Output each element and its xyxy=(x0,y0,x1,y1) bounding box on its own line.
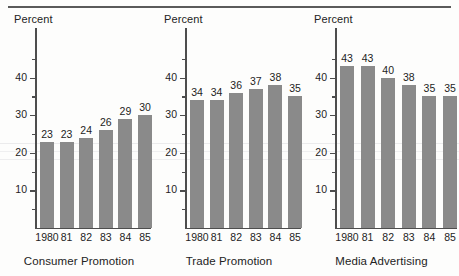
x-axis-tick-label: 81 xyxy=(208,231,226,243)
bar xyxy=(268,85,282,228)
y-axis-major-tick xyxy=(30,190,36,191)
bar-value-label: 35 xyxy=(437,82,459,94)
x-axis-tick-label: 84 xyxy=(420,231,438,243)
bar-value-label: 26 xyxy=(93,116,119,128)
bar xyxy=(229,93,243,228)
bar xyxy=(422,96,436,228)
bar xyxy=(443,96,457,228)
x-axis-tick-label: 81 xyxy=(58,231,76,243)
y-axis-major-tick xyxy=(180,78,186,79)
y-axis-tick-label: 40 xyxy=(315,71,327,83)
bar xyxy=(402,85,416,228)
y-axis-tick-label: 40 xyxy=(15,71,27,83)
bar xyxy=(340,66,354,228)
x-axis-tick-label: 82 xyxy=(227,231,245,243)
y-axis-major-tick xyxy=(180,190,186,191)
x-axis-tick-label: 1980 xyxy=(333,231,361,243)
bar xyxy=(60,142,74,228)
panel-caption: Trade Promotion xyxy=(154,255,304,267)
bar xyxy=(40,142,54,228)
bar xyxy=(118,119,132,228)
y-axis-major-tick xyxy=(30,78,36,79)
y-axis-minor-tick xyxy=(32,172,36,173)
y-axis-minor-tick xyxy=(332,134,336,135)
y-axis-minor-tick xyxy=(182,134,186,135)
x-axis-tick-label: 84 xyxy=(266,231,284,243)
bar xyxy=(381,78,395,228)
y-axis-minor-tick xyxy=(32,209,36,210)
y-axis-major-tick xyxy=(330,153,336,154)
y-axis-tick-label: 10 xyxy=(315,183,327,195)
y-axis-major-tick xyxy=(30,153,36,154)
y-axis-tick-label: 30 xyxy=(15,108,27,120)
y-axis-tick-label: 20 xyxy=(165,146,177,158)
y-axis-tick-label: 10 xyxy=(165,183,177,195)
y-axis-tick-label: 30 xyxy=(315,108,327,120)
x-axis-tick-label: 83 xyxy=(247,231,265,243)
y-axis-minor-tick xyxy=(32,96,36,97)
y-axis-unit-label: Percent xyxy=(314,13,353,25)
y-axis-unit-label: Percent xyxy=(164,13,203,25)
y-axis-minor-tick xyxy=(32,59,36,60)
chart-panel-trade-promotion: Percent 10203040 343436373835 1980818283… xyxy=(154,0,304,276)
x-axis-tick-label: 82 xyxy=(77,231,95,243)
x-axis-tick-label: 83 xyxy=(97,231,115,243)
y-axis-major-tick xyxy=(330,190,336,191)
bar-value-label: 43 xyxy=(355,52,381,64)
x-axis-tick-label: 83 xyxy=(400,231,418,243)
x-axis-tick-label: 85 xyxy=(286,231,304,243)
panel-caption: Media Advertising xyxy=(304,255,459,267)
y-axis-tick-label: 20 xyxy=(15,146,27,158)
y-axis-minor-tick xyxy=(332,172,336,173)
x-axis-tick-label: 82 xyxy=(379,231,397,243)
y-axis-major-tick xyxy=(180,153,186,154)
y-axis-major-tick xyxy=(30,115,36,116)
panel-caption: Consumer Promotion xyxy=(4,255,154,267)
x-axis-tick-label: 85 xyxy=(441,231,459,243)
y-axis-minor-tick xyxy=(182,209,186,210)
bar-value-label: 38 xyxy=(262,71,288,83)
bar xyxy=(361,66,375,228)
bar xyxy=(210,100,224,228)
y-axis-tick-label: 20 xyxy=(315,146,327,158)
y-axis-minor-tick xyxy=(182,172,186,173)
chart-panel-media-advertising: Percent 10203040 434340383535 1980818283… xyxy=(304,0,459,276)
y-axis-major-tick xyxy=(180,115,186,116)
bar xyxy=(190,100,204,228)
y-axis-minor-tick xyxy=(332,209,336,210)
y-axis-minor-tick xyxy=(332,96,336,97)
y-axis-major-tick xyxy=(330,78,336,79)
x-axis-tick-label: 81 xyxy=(359,231,377,243)
x-axis-tick-label: 85 xyxy=(136,231,154,243)
bar xyxy=(138,115,152,228)
y-axis-minor-tick xyxy=(182,59,186,60)
y-axis-tick-label: 10 xyxy=(15,183,27,195)
y-axis-major-tick xyxy=(330,115,336,116)
bar xyxy=(99,130,113,228)
x-axis-tick-label: 84 xyxy=(116,231,134,243)
bar-value-label: 38 xyxy=(396,71,422,83)
bar xyxy=(79,138,93,228)
figure-container: Percent 10203040 232324262930 1980818283… xyxy=(0,0,459,276)
y-axis-tick-label: 40 xyxy=(165,71,177,83)
y-axis-unit-label: Percent xyxy=(14,13,53,25)
bar xyxy=(249,89,263,228)
chart-panel-consumer-promotion: Percent 10203040 232324262930 1980818283… xyxy=(4,0,154,276)
bar xyxy=(288,96,302,228)
y-axis-tick-label: 30 xyxy=(165,108,177,120)
